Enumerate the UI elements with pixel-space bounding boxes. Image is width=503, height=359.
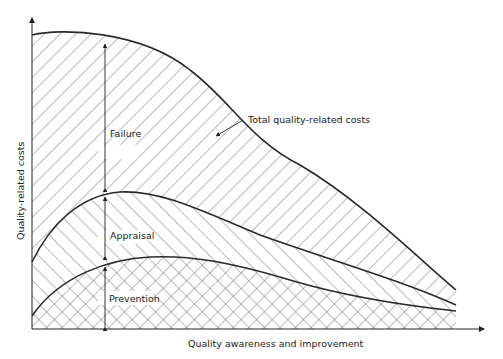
failure-label: Failure: [110, 128, 141, 139]
prevention-label: Prevention: [109, 293, 160, 304]
diagram-canvas: Failure Appraisal Prevention Total quali…: [0, 0, 503, 359]
y-axis-label: Quality-related costs: [15, 141, 26, 240]
x-axis-label: Quality awareness and improvement: [188, 338, 364, 349]
appraisal-label: Appraisal: [110, 230, 154, 241]
total-cost-callout: Total quality-related costs: [247, 114, 370, 125]
quality-costs-diagram: Failure Appraisal Prevention Total quali…: [0, 0, 503, 359]
